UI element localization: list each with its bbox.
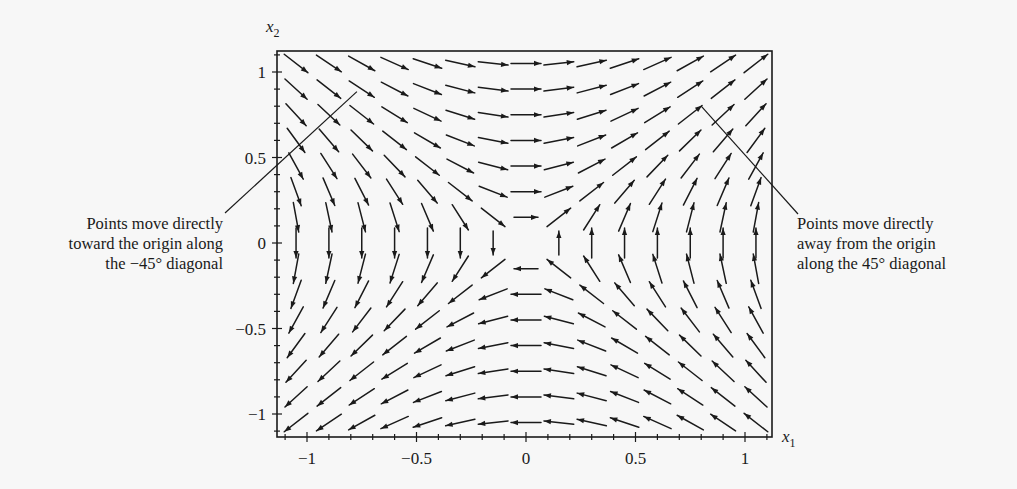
vector-arrow bbox=[511, 112, 541, 117]
vector-arrow bbox=[678, 362, 702, 380]
vector-arrow bbox=[478, 138, 507, 145]
vector-arrow bbox=[683, 178, 697, 205]
vector-arrow bbox=[418, 283, 437, 306]
vector-arrow bbox=[751, 280, 761, 308]
vector-arrow bbox=[680, 130, 701, 151]
vector-arrow bbox=[547, 208, 571, 226]
vector-arrow bbox=[382, 363, 407, 379]
vector-arrow bbox=[511, 138, 541, 143]
vector-arrow bbox=[613, 157, 637, 175]
x-tick-label: 1 bbox=[741, 449, 750, 468]
vector-arrow bbox=[321, 307, 337, 332]
vector-arrow bbox=[646, 131, 670, 149]
vector-arrow bbox=[615, 283, 634, 306]
y-tick-label: −0.5 bbox=[235, 320, 266, 339]
vector-arrow bbox=[678, 106, 702, 124]
vector-arrow bbox=[747, 333, 765, 357]
vector-arrow bbox=[681, 154, 699, 178]
vector-arrow bbox=[446, 85, 475, 93]
vector-arrow bbox=[425, 228, 430, 258]
vector-arrow bbox=[544, 136, 573, 143]
vector-arrow bbox=[317, 388, 341, 406]
vector-arrow bbox=[478, 369, 508, 375]
annotation-line: along the 45° diagonal bbox=[797, 254, 1017, 274]
vector-arrow bbox=[544, 342, 573, 349]
annotation-line: away from the origin bbox=[797, 234, 1017, 254]
vector-arrow bbox=[610, 418, 638, 428]
vector-arrow bbox=[611, 365, 638, 378]
vector-arrow bbox=[446, 340, 474, 351]
vector-arrow bbox=[323, 281, 335, 309]
vector-arrow bbox=[448, 182, 472, 200]
vector-arrow bbox=[287, 128, 305, 152]
vector-arrow bbox=[577, 59, 606, 67]
vector-arrow bbox=[578, 135, 606, 146]
vector-arrow bbox=[359, 228, 364, 258]
annotation-line: the −45° diagonal bbox=[0, 254, 223, 274]
vector-arrow bbox=[544, 111, 574, 117]
vector-arrow bbox=[645, 363, 670, 379]
annotation-away-from-origin: Points move directly away from the origi… bbox=[797, 214, 1017, 274]
axis-tick-labels: −1−0.500.51−1−0.500.51 bbox=[235, 63, 749, 468]
vector-arrow bbox=[644, 82, 671, 96]
vector-arrow bbox=[326, 228, 331, 258]
vector-arrow bbox=[589, 228, 594, 258]
vector-arrow bbox=[446, 135, 474, 146]
vector-arrow bbox=[544, 315, 573, 323]
vector-arrow bbox=[751, 178, 761, 206]
vector-arrow bbox=[316, 55, 341, 72]
vector-arrow bbox=[711, 388, 735, 406]
vector-arrow bbox=[413, 84, 441, 95]
vector-arrow bbox=[745, 387, 767, 407]
vector-arrow bbox=[323, 178, 335, 206]
vector-arrow bbox=[286, 104, 306, 126]
vector-arrow bbox=[646, 336, 670, 354]
vector-arrow bbox=[387, 282, 403, 307]
vector-arrow bbox=[321, 153, 337, 178]
vector-arrow bbox=[316, 414, 341, 431]
vector-arrow bbox=[717, 178, 729, 206]
vector-arrow bbox=[353, 154, 371, 178]
vector-arrow bbox=[680, 335, 701, 356]
vector-arrow bbox=[422, 255, 434, 283]
vector-arrow bbox=[644, 390, 671, 404]
vector-arrow bbox=[384, 155, 405, 177]
annotation-toward-origin: Points move directly toward the origin a… bbox=[0, 214, 223, 274]
vector-arrow bbox=[511, 87, 541, 92]
x-tick-label: 0.5 bbox=[625, 449, 646, 468]
vector-arrow bbox=[612, 338, 638, 353]
vector-arrow bbox=[349, 415, 375, 430]
vector-arrow bbox=[511, 61, 541, 66]
vector-arrow bbox=[511, 292, 541, 297]
vector-arrow bbox=[479, 186, 507, 197]
vector-arrow bbox=[514, 266, 538, 271]
vector-arrow bbox=[284, 413, 308, 431]
vector-arrow bbox=[446, 419, 475, 427]
vector-arrow bbox=[711, 80, 735, 98]
vector-arrow bbox=[414, 365, 441, 378]
y-tick-label: −1 bbox=[248, 405, 266, 424]
vector-arrow bbox=[615, 180, 634, 203]
vector-arrow bbox=[381, 416, 408, 428]
vector-arrow bbox=[584, 256, 600, 281]
vector-arrow bbox=[287, 333, 305, 357]
vector-arrow bbox=[319, 334, 338, 357]
vector-arrow bbox=[711, 55, 736, 72]
annotation-line: Points move directly bbox=[797, 214, 1017, 234]
vector-arrow bbox=[577, 366, 606, 375]
vector-arrow bbox=[326, 203, 333, 232]
vector-arrow bbox=[577, 418, 606, 426]
x-axis-label: x1 bbox=[781, 427, 796, 450]
vector-arrow bbox=[317, 80, 341, 98]
vector-arrow bbox=[479, 316, 508, 324]
vector-arrow bbox=[544, 162, 573, 170]
vector-arrow bbox=[753, 228, 758, 258]
vector-arrow bbox=[677, 415, 703, 430]
vector-arrow bbox=[416, 157, 440, 175]
vector-arrow bbox=[678, 389, 703, 405]
vector-field-arrows bbox=[284, 54, 768, 432]
vector-arrow bbox=[446, 110, 475, 119]
vector-arrow bbox=[291, 178, 301, 206]
x-tick-label: 0 bbox=[522, 449, 531, 468]
vector-arrow bbox=[289, 153, 303, 179]
